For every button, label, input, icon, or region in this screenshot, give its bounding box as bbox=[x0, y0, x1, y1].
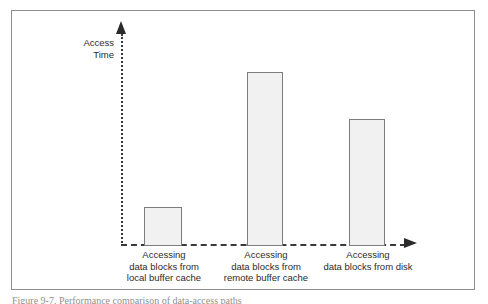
y-axis-line bbox=[121, 34, 123, 246]
category-label-disk: Accessing data blocks from disk bbox=[317, 249, 419, 272]
category-label-remote-buffer-cache: Accessing data blocks from remote buffer… bbox=[216, 249, 316, 284]
bar-disk bbox=[349, 119, 385, 246]
category-label-local-buffer-cache: Accessing data blocks from local buffer … bbox=[116, 249, 212, 284]
y-axis-arrow-icon bbox=[116, 21, 126, 34]
x-axis-arrow-icon bbox=[404, 238, 417, 248]
figure-root: Access Time Accessing data blocks from l… bbox=[0, 0, 488, 304]
bar-remote-buffer-cache bbox=[247, 72, 283, 246]
plot-area: Access Time Accessing data blocks from l… bbox=[12, 11, 476, 291]
figure-frame: Access Time Accessing data blocks from l… bbox=[11, 10, 475, 290]
y-axis-title: Access Time bbox=[62, 37, 114, 60]
bar-local-buffer-cache bbox=[144, 207, 182, 246]
figure-caption: Figure 9-7. Performance comparison of da… bbox=[12, 295, 442, 304]
